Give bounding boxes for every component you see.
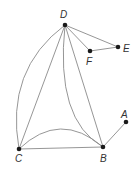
edge-c-b-curved: [19, 129, 103, 149]
edge-c-b: [19, 147, 103, 149]
edge-b-a: [103, 122, 126, 147]
vertex-b: [101, 145, 106, 150]
edge-d-c: [19, 25, 65, 149]
vertex-label-b: B: [100, 153, 107, 164]
vertex-label-f: F: [86, 56, 93, 67]
edge-f-e: [90, 47, 118, 51]
graph-diagram: DEFABC: [0, 0, 137, 169]
edge-d-e: [65, 25, 118, 47]
vertex-c: [17, 147, 22, 152]
vertex-label-c: C: [15, 153, 23, 164]
edge-d-b: [65, 25, 103, 147]
vertex-f: [88, 49, 93, 54]
vertex-label-a: A: [120, 109, 128, 120]
vertex-d: [63, 23, 68, 28]
vertex-a: [124, 120, 129, 125]
vertices-group: [17, 23, 129, 152]
edges-group: [16, 25, 126, 149]
vertex-label-e: E: [123, 43, 130, 54]
vertex-e: [116, 45, 121, 50]
vertex-label-d: D: [60, 9, 67, 20]
